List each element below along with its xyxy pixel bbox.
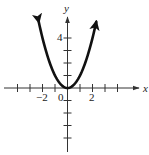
origin-label: 0 bbox=[58, 91, 64, 103]
y-tick-label-4: 4 bbox=[57, 31, 63, 43]
y-axis-label: y bbox=[63, 2, 69, 14]
x-tick-label-neg2: −2 bbox=[36, 91, 48, 103]
parabola-plot: x y 0 −2 2 4 bbox=[0, 0, 149, 155]
x-tick-label-2: 2 bbox=[89, 91, 95, 103]
x-axis-label: x bbox=[142, 82, 148, 94]
